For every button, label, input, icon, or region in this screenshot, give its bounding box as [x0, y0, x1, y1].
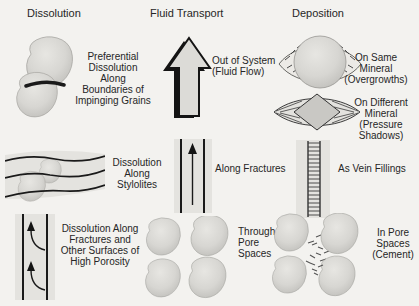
caption-stylolites: Dissolution Along Stylolites — [104, 157, 170, 190]
grain-shape — [146, 259, 181, 297]
caption-pressure-shadows: On Different Mineral (Pressure Shadows) — [346, 97, 416, 141]
fracture-band — [15, 214, 55, 300]
fluid-flow-arrow-illustration — [162, 36, 214, 118]
column-heading-dissolution: Dissolution — [27, 7, 81, 19]
grain-shape — [274, 214, 308, 251]
caption-impinging-grains: Preferential Dissolution Along Boundarie… — [70, 51, 156, 106]
grain-shape — [146, 218, 180, 255]
grain-shape — [189, 257, 226, 298]
grain-shape — [319, 256, 355, 296]
caption-cement: In Pore Spaces (Cement) — [367, 227, 419, 260]
cement-cluster-illustration — [270, 213, 368, 303]
grain-shape — [17, 72, 58, 117]
caption-high-porosity: Dissolution Along Fractures and Other Su… — [56, 223, 144, 267]
caption-vein-fillings: As Vein Fillings — [338, 163, 418, 174]
mineral-diamond — [294, 94, 340, 130]
column-heading-fluid-transport: Fluid Transport — [150, 7, 223, 19]
stylolites-illustration — [5, 147, 105, 207]
column-heading-deposition: Deposition — [292, 7, 344, 19]
caption-overgrowths: On Same Mineral (Overgrowths) — [336, 52, 416, 85]
fracture-flow-illustration — [174, 139, 212, 213]
pore-cluster-illustration — [142, 216, 237, 304]
grain-shape — [272, 256, 306, 293]
vein-filling-illustration — [293, 140, 333, 218]
grain-shape — [321, 213, 358, 254]
caption-along-fractures: Along Fractures — [215, 163, 305, 174]
grain-shape — [191, 216, 228, 256]
diagram-canvas: Dissolution Fluid Transport Deposition P… — [0, 0, 419, 306]
fracture-dissolution-illustration — [13, 214, 57, 300]
